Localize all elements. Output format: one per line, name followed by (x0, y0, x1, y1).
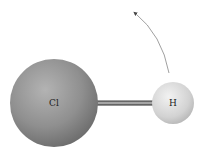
rotation-arrow (135, 13, 169, 73)
hcl-molecule-diagram: Cl H (0, 0, 203, 155)
bond (94, 100, 156, 106)
hydrogen-label: H (169, 98, 177, 108)
chlorine-label: Cl (49, 98, 59, 108)
